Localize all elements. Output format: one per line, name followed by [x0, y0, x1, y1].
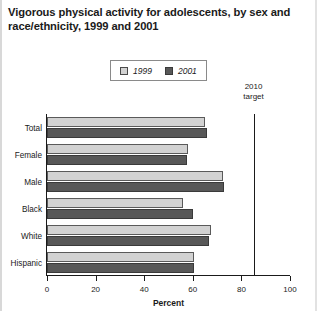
category-label-female: Female — [15, 150, 42, 159]
bar-black-1999 — [47, 198, 183, 208]
x-tick-label-100: 100 — [283, 285, 296, 294]
bar-female-1999 — [47, 144, 188, 154]
legend-label-2001: 2001 — [178, 66, 197, 76]
x-axis-title: Percent — [47, 298, 290, 308]
page-edge-left-artifact — [0, 0, 2, 311]
bar-total-2001 — [47, 128, 207, 138]
category-label-white: White — [21, 231, 42, 240]
x-tick-60 — [193, 276, 194, 281]
legend-swatch-2001-icon — [165, 67, 173, 75]
target-line-2010 — [254, 114, 255, 276]
x-tick-label-0: 0 — [45, 285, 49, 294]
x-tick-0 — [47, 276, 48, 281]
category-label-hispanic: Hispanic — [11, 258, 42, 267]
legend-item-1999: 1999 — [120, 66, 152, 76]
x-tick-100 — [290, 276, 291, 281]
target-label-line2: target — [243, 92, 263, 102]
x-tick-label-60: 60 — [188, 285, 197, 294]
x-tick-label-40: 40 — [140, 285, 149, 294]
category-label-black: Black — [22, 204, 42, 213]
legend-label-1999: 1999 — [133, 66, 152, 76]
legend-item-2001: 2001 — [165, 66, 197, 76]
legend-swatch-1999-icon — [120, 67, 128, 75]
bar-white-2001 — [47, 236, 209, 246]
x-tick-label-80: 80 — [237, 285, 246, 294]
page-edge-right-artifact — [315, 0, 317, 311]
category-label-male: Male — [24, 177, 42, 186]
chart-title: Vigorous physical activity for adolescen… — [8, 5, 308, 33]
x-tick-label-20: 20 — [91, 285, 100, 294]
bar-total-1999 — [47, 117, 205, 127]
x-tick-20 — [96, 276, 97, 281]
x-tick-80 — [241, 276, 242, 281]
chart-figure: Vigorous physical activity for adolescen… — [0, 0, 317, 311]
chart-legend: 1999 2001 — [110, 60, 207, 81]
bar-female-2001 — [47, 155, 187, 165]
bar-male-1999 — [47, 171, 223, 181]
plot-area: 020406080100 TotalFemaleMaleBlackWhiteHi… — [47, 114, 290, 276]
bar-white-1999 — [47, 225, 211, 235]
target-label-line1: 2010 — [243, 82, 263, 92]
target-label-2010: 2010target — [243, 82, 263, 102]
bar-male-2001 — [47, 182, 224, 192]
category-label-total: Total — [25, 123, 42, 132]
x-tick-40 — [144, 276, 145, 281]
bar-hispanic-1999 — [47, 252, 194, 262]
bar-hispanic-2001 — [47, 263, 194, 273]
bar-black-2001 — [47, 209, 193, 219]
